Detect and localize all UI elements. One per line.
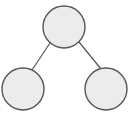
tree-diagram (0, 0, 137, 120)
nodes-group (2, 6, 127, 110)
edge-root-to-left-child (32, 43, 50, 70)
node-right-child (85, 68, 127, 110)
node-root (43, 6, 85, 48)
edge-root-to-right-child (79, 42, 101, 69)
node-left-child (2, 68, 44, 110)
tree-diagram-svg (0, 0, 137, 120)
